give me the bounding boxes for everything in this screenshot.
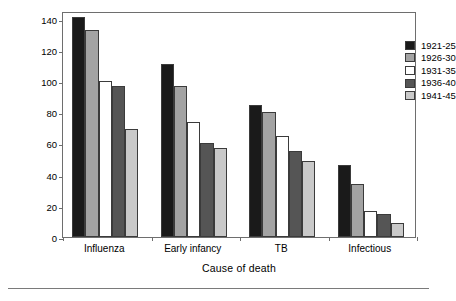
bar (99, 81, 112, 237)
legend-swatch-icon (405, 91, 415, 100)
x-tick-label: Early infancy (164, 243, 221, 254)
bar (249, 105, 262, 237)
legend-item: 1921-25 (405, 39, 456, 52)
bar (338, 165, 351, 237)
legend-swatch-icon (405, 41, 415, 50)
bar (125, 129, 138, 237)
x-tick-mark (329, 237, 330, 241)
bar-group (249, 13, 315, 237)
bar (161, 64, 174, 237)
legend-label: 1936-40 (421, 78, 456, 88)
y-tick-label: 120 (33, 47, 57, 57)
bar (112, 86, 125, 237)
legend-label: 1921-25 (421, 41, 456, 51)
plot-area: Death rate 020406080100120140 1921-25192… (62, 12, 416, 238)
y-tick-label: 80 (33, 110, 57, 120)
y-tick-label: 40 (33, 172, 57, 182)
y-tick-label: 0 (33, 234, 57, 244)
bar (174, 86, 187, 237)
bar (214, 148, 227, 237)
y-tick-label: 100 (33, 78, 57, 88)
legend-item: 1926-30 (405, 52, 456, 65)
legend-swatch-icon (405, 66, 415, 75)
x-tick-label: TB (275, 243, 288, 254)
bar (72, 17, 85, 237)
x-tick-mark (417, 237, 418, 241)
bar-group (72, 13, 138, 237)
legend-item: 1941-45 (405, 89, 456, 102)
legend-label: 1941-45 (421, 91, 456, 101)
bottom-divider (8, 288, 429, 289)
x-tick-mark (240, 237, 241, 241)
y-tick-label: 140 (33, 16, 57, 26)
bar (85, 30, 98, 237)
bar (262, 112, 275, 237)
x-tick-mark (152, 237, 153, 241)
y-tick-label: 20 (33, 203, 57, 213)
y-tick-label: 60 (33, 141, 57, 151)
x-tick-label: Infectious (348, 243, 391, 254)
legend-swatch-icon (405, 53, 415, 62)
legend-item: 1936-40 (405, 77, 456, 90)
legend-label: 1926-30 (421, 53, 456, 63)
legend-label: 1931-35 (421, 66, 456, 76)
bar (377, 214, 390, 237)
bar-group (338, 13, 404, 237)
bar (302, 161, 315, 237)
bars-layer (63, 13, 415, 237)
bar (391, 223, 404, 237)
legend-swatch-icon (405, 79, 415, 88)
x-tick-label: Influenza (84, 243, 125, 254)
bar (364, 211, 377, 237)
legend-item: 1931-35 (405, 64, 456, 77)
bar (187, 122, 200, 237)
x-tick-mark (63, 237, 64, 241)
bar (200, 143, 213, 237)
chart-legend: 1921-251926-301931-351936-401941-45 (405, 39, 456, 102)
bar (289, 151, 302, 237)
bar (276, 136, 289, 237)
bar (351, 184, 364, 237)
bar-group (161, 13, 227, 237)
x-axis-title: Cause of death (62, 262, 416, 274)
